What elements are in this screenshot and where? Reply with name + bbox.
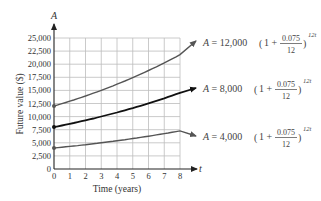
svg-text:): ) [298,132,301,144]
y-tick-label: 25,000 [28,33,51,43]
y-tick-label: 22,500 [28,46,51,56]
start-point [52,104,56,108]
x-tick-label: 8 [178,171,182,181]
svg-text:1 +: 1 + [259,131,273,142]
svg-text:A = 4,000: A = 4,000 [202,131,242,142]
y-tick-label: 10,000 [28,112,51,122]
x-tick-label: 7 [162,171,166,181]
y-tick-label: 12,500 [28,99,51,109]
x-tick-label: 6 [146,171,150,181]
y-tick-label: 17,500 [28,72,51,82]
x-tick-label: 1 [68,171,72,181]
equation-label: A = 4,000(1 +0.07512)12t [202,125,312,149]
svg-text:1 +: 1 + [259,83,273,94]
svg-text:12t: 12t [308,31,317,38]
axes [54,24,197,169]
svg-text:0.075: 0.075 [277,128,295,137]
x-tick-label: 3 [99,171,103,181]
y-tick-label: 15,000 [28,85,51,95]
equation-label: A = 12,000(1 +0.07512)12t [202,31,317,55]
svg-text:(: ( [254,132,258,144]
svg-text:(: ( [254,84,258,96]
x-tick-label: 5 [131,171,135,181]
x-tick-labels: 012345678 [52,171,182,181]
y-tick-label: 7,500 [32,125,51,135]
x-tick-label: 4 [115,171,120,181]
svg-text:A = 8,000: A = 8,000 [202,83,242,94]
grid [54,38,180,169]
start-point [52,146,56,150]
x-tick-label: 2 [83,171,87,181]
svg-text:12: 12 [282,140,290,149]
y-tick-label: 0 [47,164,51,174]
y-axis-var: A [50,10,58,21]
curves [52,41,196,150]
curve-8000 [54,88,196,127]
curve-4000 [54,131,196,148]
svg-text:0.075: 0.075 [277,80,295,89]
svg-text:1 +: 1 + [264,37,278,48]
svg-text:12t: 12t [303,125,312,132]
x-axis-var: t [199,163,202,174]
y-axis-label: Future value ($) [15,73,26,134]
svg-text:A = 12,000: A = 12,000 [202,37,247,48]
svg-text:12: 12 [287,46,295,55]
svg-text:12t: 12t [303,77,312,84]
svg-text:): ) [303,38,306,50]
y-tick-label: 5,000 [32,138,51,148]
equation-label: A = 8,000(1 +0.07512)12t [202,77,312,101]
svg-text:12: 12 [282,92,290,101]
y-tick-label: 20,000 [28,59,51,69]
svg-text:0.075: 0.075 [282,34,300,43]
x-tick-label: 0 [52,171,56,181]
y-tick-label: 2,500 [32,151,51,161]
svg-text:): ) [298,84,301,96]
start-point [52,125,56,129]
y-tick-labels: 02,5005,0007,50010,00012,50015,00017,500… [28,33,51,174]
svg-text:(: ( [259,38,263,50]
x-axis-label: Time (years) [93,184,141,195]
equation-labels: A = 12,000(1 +0.07512)12tA = 8,000(1 +0.… [202,31,317,149]
chart: 02,5005,0007,50010,00012,50015,00017,500… [0,0,321,201]
